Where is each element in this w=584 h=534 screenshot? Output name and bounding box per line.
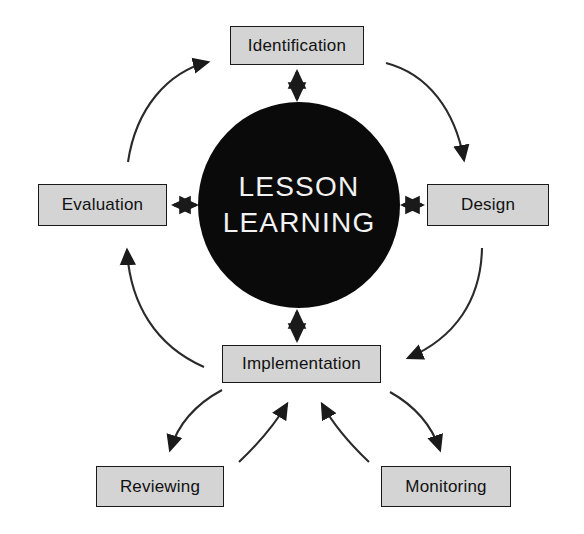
- node-evaluation[interactable]: Evaluation: [38, 184, 167, 226]
- node-reviewing[interactable]: Reviewing: [96, 466, 224, 507]
- node-identification-label: Identification: [248, 36, 346, 56]
- node-reviewing-label: Reviewing: [120, 477, 200, 497]
- node-implementation-label: Implementation: [242, 354, 361, 374]
- connector-reviewing-implementation: [239, 404, 287, 462]
- node-design-label: Design: [461, 195, 515, 215]
- connector-implementation-monitoring: [390, 392, 440, 450]
- node-monitoring[interactable]: Monitoring: [381, 466, 511, 507]
- node-identification[interactable]: Identification: [230, 26, 364, 65]
- hub-label-line2: LEARNING: [223, 205, 376, 241]
- node-evaluation-label: Evaluation: [62, 195, 143, 215]
- connector-identification-design: [386, 63, 464, 160]
- lesson-learning-hub: LESSON LEARNING: [198, 102, 400, 308]
- connector-monitoring-implementation: [322, 404, 369, 462]
- node-design[interactable]: Design: [427, 184, 549, 226]
- connector-implementation-evaluation: [127, 250, 204, 367]
- node-monitoring-label: Monitoring: [405, 477, 486, 497]
- connector-design-implementation: [408, 248, 482, 358]
- connector-implementation-reviewing: [170, 390, 222, 450]
- connector-evaluation-identification: [128, 62, 208, 162]
- node-implementation[interactable]: Implementation: [222, 345, 381, 383]
- lesson-learning-cycle-diagram: LESSON LEARNING Identification Design Im…: [0, 0, 584, 534]
- hub-label-line1: LESSON: [239, 169, 360, 205]
